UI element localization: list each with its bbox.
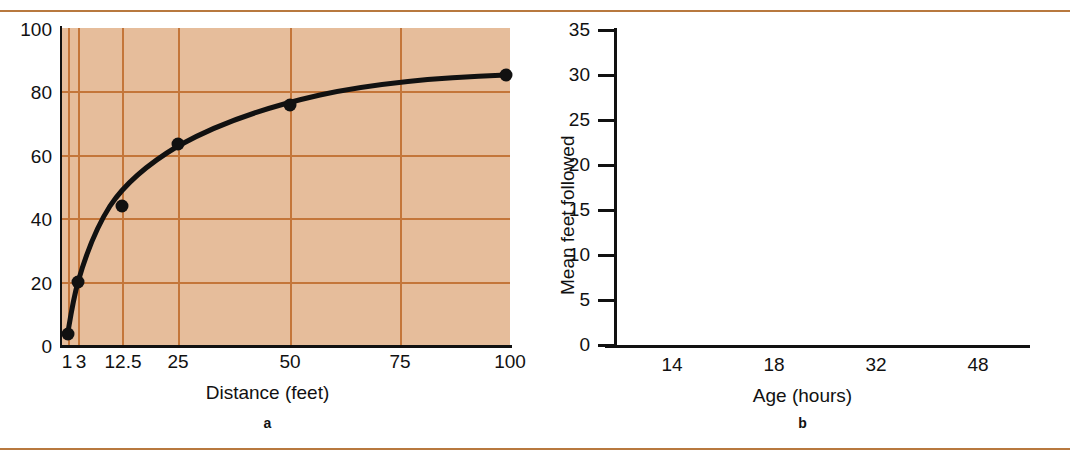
panel-a-y-axis-line [60,26,62,347]
panel-b-y-axis-line [614,28,617,347]
panel-b-xtick-14: 14 [652,355,692,374]
gridline-horizontal-40 [62,218,510,220]
panel-a: 100 80 60 40 20 0 1 3 12.5 25 50 75 100 … [0,0,535,460]
panel-a-xtick-100: 100 [486,352,534,371]
gridline-horizontal-80 [62,91,510,93]
panel-b-x-axis-title: Age (hours) [535,385,1070,407]
panel-b-ytickmark-35 [598,29,614,32]
panel-a-plot-area [62,28,510,345]
panel-b: 35 30 25 20 15 10 5 0 14 18 32 48 Age (h… [535,0,1070,460]
panel-a-xtick-50: 50 [272,352,308,371]
gridline-vertical-3 [78,28,80,345]
panel-b-y-axis-title: Mean feet followed [557,136,579,296]
panel-b-x-axis-line [605,345,1030,348]
panel-b-ytickmark-25 [598,119,614,122]
panel-b-xtick-18: 18 [754,355,794,374]
panel-a-ytick-100: 100 [4,20,52,39]
gridline-horizontal-20 [62,282,510,284]
panel-b-letter: b [535,415,1070,431]
panel-a-xtick-12-5: 12.5 [96,352,150,371]
panel-b-ytick-30: 30 [545,65,590,84]
panel-b-ytickmark-20 [598,164,614,167]
panel-b-ytick-25: 25 [545,110,590,129]
gridline-horizontal-60 [62,155,510,157]
panel-a-xtick-75: 75 [382,352,418,371]
panel-b-ytickmark-15 [598,209,614,212]
panel-a-x-axis-line [60,345,512,348]
panel-a-ytick-60: 60 [4,147,52,166]
panel-b-ytickmark-0 [598,344,614,347]
gridline-vertical-12-5 [122,28,124,345]
panel-b-ytick-35: 35 [545,20,590,39]
panel-a-xtick-3: 3 [66,352,96,371]
figure-container: 100 80 60 40 20 0 1 3 12.5 25 50 75 100 … [0,0,1070,460]
gridline-vertical-50 [290,28,292,345]
panel-b-ytickmark-10 [598,254,614,257]
panel-a-xtick-25: 25 [160,352,196,371]
panel-a-ytick-40: 40 [4,210,52,229]
panel-a-ytick-80: 80 [4,83,52,102]
panel-b-xtick-32: 32 [856,355,896,374]
gridline-vertical-75 [400,28,402,345]
panel-a-x-axis-title: Distance (feet) [0,382,535,404]
panel-b-ytickmark-5 [598,299,614,302]
panel-a-letter: a [0,415,535,431]
gridline-vertical-25 [178,28,180,345]
gridline-vertical-1 [68,28,70,345]
panel-a-ytick-20: 20 [4,274,52,293]
panel-a-ytick-0: 0 [4,337,52,356]
panel-b-xtick-48: 48 [958,355,998,374]
panel-b-ytick-0: 0 [545,335,590,354]
panel-b-ytickmark-30 [598,74,614,77]
